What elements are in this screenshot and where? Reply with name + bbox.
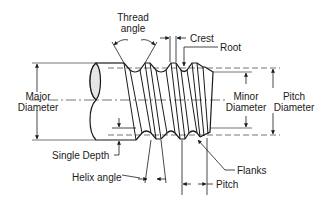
- flanks-label: Flanks: [237, 165, 266, 176]
- flanks-leader: [198, 140, 235, 170]
- pitch-diameter-label-line1: Pitch: [270, 91, 318, 102]
- thread-angle-dimension: [112, 40, 157, 63]
- single-depth-dimension: [112, 118, 136, 155]
- thread-profile-bottom: [136, 131, 200, 140]
- minor-diameter-label: Minor Diameter: [222, 91, 270, 113]
- crest-dimension: [160, 36, 186, 62]
- major-diameter-label-line1: Major: [14, 91, 62, 102]
- helix-angle-label: Helix angle: [72, 172, 121, 183]
- pitch-dimension: [182, 138, 213, 195]
- single-depth-label: Single Depth: [52, 150, 109, 161]
- root-leader: [184, 47, 218, 66]
- thread-right-end: [200, 67, 213, 137]
- helix-angle-dimension: [122, 140, 166, 183]
- crest-label: Crest: [190, 33, 214, 44]
- major-diameter-label-line2: Diameter: [14, 102, 62, 113]
- root-label: Root: [220, 42, 241, 53]
- minor-diameter-label-line1: Minor: [222, 91, 270, 102]
- major-diameter-label: Major Diameter: [14, 91, 62, 113]
- helix-lines: [124, 63, 208, 140]
- pitch-diameter-label: Pitch Diameter: [270, 91, 318, 113]
- thread-angle-label-line1: Thread: [116, 12, 150, 23]
- shaft-body: [90, 63, 213, 140]
- pitch-diameter-label-line2: Diameter: [270, 102, 318, 113]
- thread-angle-label: Thread angle: [116, 12, 150, 34]
- thread-angle-label-line2: angle: [116, 23, 150, 34]
- pitch-label: Pitch: [216, 179, 238, 190]
- minor-diameter-label-line2: Diameter: [222, 102, 270, 113]
- shaft-break-hatch: [90, 63, 101, 100]
